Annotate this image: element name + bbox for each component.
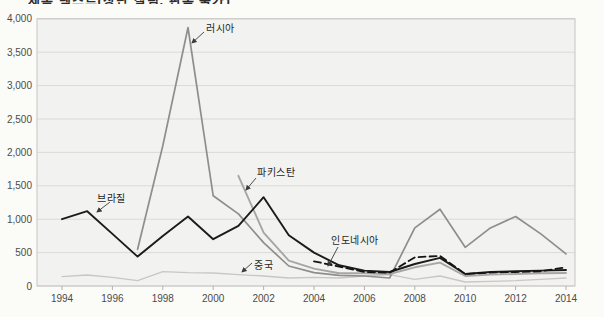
- x-axis-label-1994: 1994: [40, 293, 84, 304]
- china-label: 중국: [254, 257, 273, 272]
- x-axis-label-2006: 2006: [342, 293, 386, 304]
- y-axis-label-0: 0: [0, 281, 32, 292]
- x-axis-label-1996: 1996: [90, 293, 134, 304]
- y-axis-label-4,000: 4,000: [0, 13, 32, 24]
- line-chart-canvas: [0, 0, 604, 317]
- x-axis-label-2002: 2002: [242, 293, 286, 304]
- x-axis-label-2012: 2012: [494, 293, 538, 304]
- pakistan-label: 파키스탄: [257, 164, 295, 179]
- y-axis-label-3,000: 3,000: [0, 80, 32, 91]
- y-axis-label-2,500: 2,500: [0, 114, 32, 125]
- chart-figure: 제목 텍스트(상단 잘림, 판독 불가) 05001,0001,5002,000…: [0, 0, 604, 317]
- x-axis-label-2004: 2004: [292, 293, 336, 304]
- indonesia-label: 인도네시아: [331, 232, 379, 247]
- y-axis-label-2,000: 2,000: [0, 147, 32, 158]
- x-axis-label-2000: 2000: [191, 293, 235, 304]
- y-axis-label-500: 500: [0, 247, 32, 258]
- y-axis-label-1,500: 1,500: [0, 180, 32, 191]
- x-axis-label-1998: 1998: [141, 293, 185, 304]
- x-axis-label-2008: 2008: [393, 293, 437, 304]
- x-axis-label-2010: 2010: [443, 293, 487, 304]
- y-axis-label-1,000: 1,000: [0, 214, 32, 225]
- russia-label: 러시아: [206, 20, 235, 35]
- brazil-label: 브라질: [97, 190, 126, 205]
- y-axis-label-3,500: 3,500: [0, 47, 32, 58]
- x-axis-label-2014: 2014: [544, 293, 588, 304]
